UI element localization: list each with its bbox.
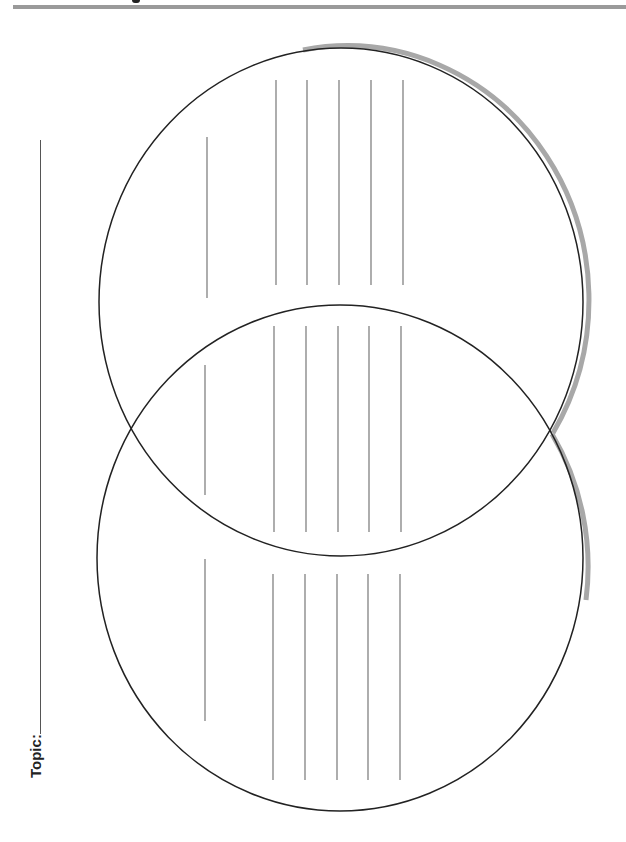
overlap-region-lines bbox=[205, 326, 401, 532]
top-circle-shadow bbox=[303, 46, 589, 433]
topic-label: Topic: bbox=[28, 738, 44, 778]
venn-diagram bbox=[0, 0, 626, 842]
topic-input-line[interactable] bbox=[40, 140, 41, 734]
top-circle bbox=[99, 48, 583, 556]
bottom-circle bbox=[97, 305, 583, 811]
top-region-lines bbox=[207, 80, 403, 298]
bottom-region-lines bbox=[205, 559, 400, 780]
